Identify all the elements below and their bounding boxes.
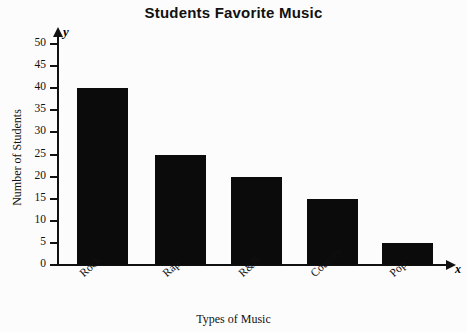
bars-layer: [0, 0, 467, 265]
y-axis-title: Number of Students: [10, 78, 25, 238]
bar-pop[interactable]: [382, 243, 433, 265]
bar-chart: Students Favorite Music y x 051015202530…: [0, 0, 467, 332]
x-axis-title: Types of Music: [0, 312, 467, 327]
bar-rap[interactable]: [155, 155, 206, 266]
bar-rock[interactable]: [77, 88, 128, 265]
bar-r-b[interactable]: [231, 177, 282, 265]
